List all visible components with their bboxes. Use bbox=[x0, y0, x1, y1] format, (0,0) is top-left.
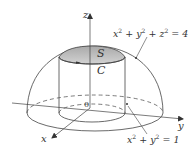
curve-C-label: C bbox=[97, 65, 105, 76]
origin-label: 0 bbox=[84, 101, 89, 109]
hemisphere-diagram: z y x 0 S C x2 + y2 + z2 = 4 x2 + y2 = 1 bbox=[0, 0, 193, 165]
surface-S-label: S bbox=[97, 48, 105, 59]
cylinder-leader-line bbox=[128, 106, 147, 134]
cylinder-equation: x2 + y2 = 1 bbox=[127, 134, 179, 145]
sphere-leader-line bbox=[136, 37, 147, 58]
x-axis bbox=[52, 108, 90, 138]
sphere-leader-dot bbox=[135, 57, 137, 59]
inner-circle-front bbox=[59, 113, 125, 122]
cylinder-leader-dot bbox=[126, 103, 128, 105]
y-axis bbox=[12, 103, 183, 119]
z-axis-label: z bbox=[83, 10, 88, 20]
y-axis-label: y bbox=[178, 121, 184, 131]
x-axis-label: x bbox=[41, 134, 47, 144]
sphere-equation: x2 + y2 + z2 = 4 bbox=[113, 28, 188, 39]
